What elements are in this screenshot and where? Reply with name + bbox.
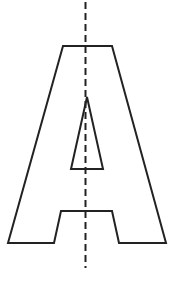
letter-a-diagram — [0, 0, 184, 285]
diagram-canvas: A — [0, 0, 184, 285]
letter-a-inner-triangle — [71, 97, 103, 169]
letter-a-outline — [8, 46, 166, 243]
